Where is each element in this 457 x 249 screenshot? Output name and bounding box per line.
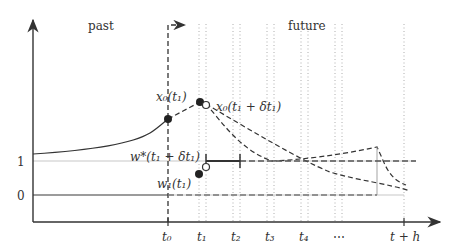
label-x0-t1: x₀(t₁)	[156, 90, 187, 104]
future-label: future	[288, 19, 326, 33]
x-tick-t2: t₂	[231, 230, 241, 244]
state-point-t0	[164, 115, 172, 123]
x-tick-t0: t₀	[162, 230, 172, 244]
x-tick-ellipsis: ⋯	[333, 230, 345, 244]
dotted-time-gridlines	[199, 24, 404, 222]
diagram-canvas: past future 1 0 t₀ t₁ t₂ t₃ t₄ ⋯ t + h x…	[0, 0, 457, 249]
mpc-horizon-diagram: past future 1 0 t₀ t₁ t₂ t₃ t₄ ⋯ t + h x…	[0, 0, 457, 249]
label-w-star: w*(t₁ + δt₁)	[130, 150, 200, 164]
predicted-state-curve	[168, 102, 200, 119]
x-tick-horizon: t + h	[390, 230, 420, 244]
predicted-trajectory-a	[206, 104, 406, 185]
x-tick-t3: t₃	[265, 230, 275, 244]
x-tick-t1: t₁	[197, 230, 207, 244]
current-time-marker	[168, 25, 185, 222]
y-tick-1: 1	[17, 155, 25, 169]
input-point-t1-dt	[203, 164, 210, 171]
input-point-t1	[195, 170, 203, 178]
past-label: past	[88, 19, 114, 33]
x-tick-t4: t₄	[299, 230, 309, 244]
label-x0-t1-dt: x₀(t₁ + δt₁)	[216, 100, 281, 114]
y-tick-0: 0	[17, 189, 25, 203]
label-w-t1: w₁(t₁)	[157, 177, 191, 191]
past-state-curve	[33, 119, 168, 154]
state-point-t1-dt	[203, 102, 210, 109]
